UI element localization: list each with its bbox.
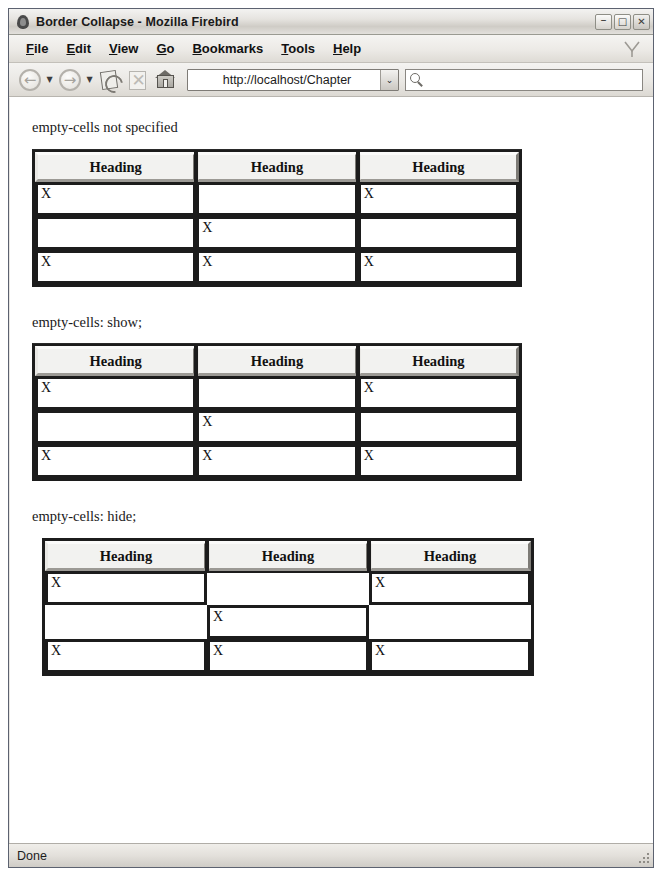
navigation-toolbar: ← ▼ → ▼ ✕ http://localhost/Chapter ⌄ [9, 63, 653, 97]
table-cell-empty [358, 216, 519, 250]
stop-icon[interactable]: ✕ [125, 67, 151, 93]
table-header-cell: Heading [358, 152, 519, 182]
resize-grip-icon[interactable] [637, 851, 651, 865]
table-cell: X [45, 571, 207, 605]
menu-item-tools[interactable]: Tools [272, 39, 324, 58]
window-controls: – □ ✕ [595, 14, 650, 30]
back-glyph: ← [17, 67, 43, 93]
back-arrow-icon[interactable]: ← [17, 67, 43, 93]
table-header-cell: Heading [45, 541, 207, 571]
table-row: X X X [35, 444, 519, 478]
table-row: X X X [45, 639, 531, 673]
table-empty-cells-show: Heading Heading Heading X X X X X X [32, 343, 522, 481]
address-dropdown-icon[interactable]: ⌄ [380, 70, 398, 90]
menu-bar: File Edit View Go Bookmarks Tools Help [9, 35, 653, 63]
table-cell: X [358, 250, 519, 284]
forward-dropdown-caret-icon[interactable]: ▼ [84, 75, 95, 84]
table-cell-empty [358, 410, 519, 444]
table-cell-empty [35, 410, 196, 444]
table-row: X X [45, 571, 531, 605]
close-button[interactable]: ✕ [633, 14, 650, 30]
table-header-cell: Heading [369, 541, 531, 571]
address-input[interactable]: http://localhost/Chapter [188, 73, 380, 87]
caption-empty-cells-not-specified: empty-cells not specified [32, 120, 653, 135]
table-cell: X [196, 444, 357, 478]
table-cell: X [358, 444, 519, 478]
table-cell-empty [196, 376, 357, 410]
table-header-row: Heading Heading Heading [35, 152, 519, 182]
window-title: Border Collapse - Mozilla Firebird [36, 15, 595, 29]
table-cell: X [207, 605, 369, 639]
menu-item-file[interactable]: File [17, 39, 57, 58]
caption-empty-cells-show: empty-cells: show; [32, 315, 653, 330]
table-cell: X [35, 182, 196, 216]
table-header-cell: Heading [358, 346, 519, 376]
table-cell: X [207, 639, 369, 673]
table-row: X [35, 216, 519, 250]
table-empty-cells-hide: Heading Heading Heading X X X X X X [42, 538, 534, 676]
home-icon[interactable] [153, 67, 179, 93]
table-header-cell: Heading [35, 152, 196, 182]
minimize-button[interactable]: – [595, 14, 612, 30]
page-viewport: empty-cells not specified Heading Headin… [9, 97, 653, 843]
table-cell: X [358, 182, 519, 216]
table-cell-empty [196, 182, 357, 216]
maximize-button[interactable]: □ [614, 14, 631, 30]
status-text: Done [17, 849, 47, 863]
firebird-flame-icon [15, 14, 31, 30]
address-bar[interactable]: http://localhost/Chapter ⌄ [187, 69, 399, 91]
status-bar: Done [9, 843, 653, 867]
table-cell: X [35, 250, 196, 284]
caption-empty-cells-hide: empty-cells: hide; [32, 509, 653, 524]
throbber-icon [621, 38, 643, 60]
menu-item-help[interactable]: Help [324, 39, 370, 58]
menu-item-bookmarks[interactable]: Bookmarks [183, 39, 272, 58]
table-cell: X [35, 376, 196, 410]
table-header-row: Heading Heading Heading [35, 346, 519, 376]
table-cell: X [358, 376, 519, 410]
forward-glyph: → [57, 67, 83, 93]
table-row: X X X [35, 250, 519, 284]
table-cell: X [35, 444, 196, 478]
table-header-cell: Heading [196, 152, 357, 182]
table-cell: X [369, 639, 531, 673]
stop-x-glyph: ✕ [131, 73, 146, 88]
table-header-cell: Heading [196, 346, 357, 376]
table-header-cell: Heading [207, 541, 369, 571]
minimize-icon: – [596, 13, 611, 27]
table-cell-empty [45, 605, 207, 639]
close-icon: ✕ [634, 15, 649, 29]
browser-window: Border Collapse - Mozilla Firebird – □ ✕… [8, 8, 654, 868]
search-magnifier-icon [410, 73, 424, 87]
table-cell: X [369, 571, 531, 605]
menu-item-edit[interactable]: Edit [57, 39, 100, 58]
menu-item-go[interactable]: Go [147, 39, 183, 58]
table-cell: X [196, 410, 357, 444]
table-header-row: Heading Heading Heading [45, 541, 531, 571]
table-row: X [35, 410, 519, 444]
maximize-icon: □ [615, 15, 630, 29]
table-row: X X [35, 376, 519, 410]
back-dropdown-caret-icon[interactable]: ▼ [44, 75, 55, 84]
reload-icon[interactable] [97, 67, 123, 93]
title-bar: Border Collapse - Mozilla Firebird – □ ✕ [9, 9, 653, 35]
table-row: X X [35, 182, 519, 216]
forward-arrow-icon[interactable]: → [57, 67, 83, 93]
table-row: X [45, 605, 531, 639]
table-empty-cells-not-specified: Heading Heading Heading X X X X X X [32, 149, 522, 287]
table-cell-empty [207, 571, 369, 605]
table-cell: X [196, 250, 357, 284]
search-bar[interactable] [405, 69, 643, 91]
table-cell-empty [369, 605, 531, 639]
table-cell-empty [35, 216, 196, 250]
menu-item-view[interactable]: View [100, 39, 147, 58]
table-cell: X [45, 639, 207, 673]
table-cell: X [196, 216, 357, 250]
table-header-cell: Heading [35, 346, 196, 376]
